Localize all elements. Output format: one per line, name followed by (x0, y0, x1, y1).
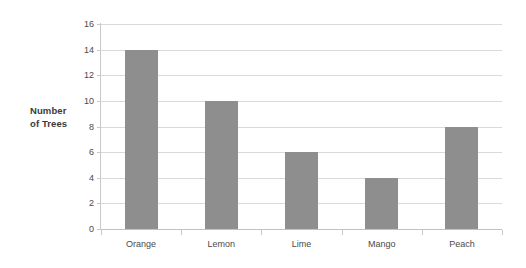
x-axis-tick-labels: OrangeLemonLimeMangoPeach (101, 239, 502, 249)
y-axis-tick-label: 8 (70, 122, 94, 132)
y-axis-tick-label: 10 (70, 96, 94, 106)
x-axis-tick-label: Peach (422, 239, 502, 249)
x-axis-tick-label: Lemon (181, 239, 261, 249)
x-axis-tick-label: Mango (342, 239, 422, 249)
bar-orange (125, 50, 158, 229)
x-axis-tick-label: Orange (101, 239, 181, 249)
y-axis-tick-label: 12 (70, 70, 94, 80)
bar-slot (101, 24, 181, 229)
y-axis-tick-label: 6 (70, 147, 94, 157)
bars-layer (101, 24, 502, 229)
bar-peach (445, 127, 478, 230)
x-axis-tick-mark (261, 230, 262, 235)
bar-slot (342, 24, 422, 229)
x-axis-tick-mark (342, 230, 343, 235)
y-axis-tick-label: 16 (70, 19, 94, 29)
y-axis-tick-label: 14 (70, 45, 94, 55)
y-axis-tick-labels: 1614121086420 (66, 24, 94, 229)
y-axis-tick-label: 4 (70, 173, 94, 183)
bar-lemon (205, 101, 238, 229)
bar-slot (422, 24, 502, 229)
x-axis-tick-mark (181, 230, 182, 235)
x-axis-tick-mark (502, 230, 503, 235)
bar-slot (261, 24, 341, 229)
bar-mango (365, 178, 398, 229)
x-axis-tick-marks (101, 230, 502, 235)
x-axis-tick-mark (101, 230, 102, 235)
y-axis-tick-label: 0 (70, 224, 94, 234)
x-axis-tick-label: Lime (261, 239, 341, 249)
bar-chart-figure: Number of Trees 1614121086420 OrangeLemo… (0, 0, 526, 268)
bar-slot (181, 24, 261, 229)
x-axis-tick-mark (422, 230, 423, 235)
y-axis-tick-label: 2 (70, 198, 94, 208)
bar-lime (285, 152, 318, 229)
